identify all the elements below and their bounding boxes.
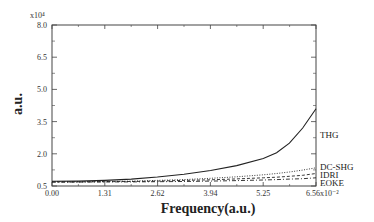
series-labels: THGDC-SHGIDRIEOKE (320, 130, 354, 188)
series-label-thg: THG (320, 130, 339, 140)
x-axis-title: Frequency(a.u.) (161, 201, 256, 217)
y-axis-ticks: 0.52.03.55.06.58.0 (37, 21, 316, 191)
y-tick-label: 8.0 (37, 21, 47, 30)
y-tick-label: 5.0 (37, 85, 47, 94)
chart-canvas: 0.001.312.623.945.256.56x10⁻² 0.52.03.55… (0, 0, 374, 222)
series-line-thg (52, 109, 316, 182)
y-tick-label: 2.0 (37, 150, 47, 159)
x-tick-label: 3.94 (203, 189, 217, 198)
x-tick-label: 0.00 (45, 189, 59, 198)
series-label-eoke: EOKE (320, 178, 344, 188)
series-lines (52, 109, 316, 182)
y-tick-label: 3.5 (37, 118, 47, 127)
x-tick-label: 1.31 (98, 189, 112, 198)
x-tick-label: 6.56x10⁻² (306, 189, 339, 198)
plot-frame (52, 25, 316, 186)
y-exponent-label: x10⁴ (30, 11, 45, 20)
y-tick-label: 0.5 (37, 182, 47, 191)
y-tick-label: 6.5 (37, 53, 47, 62)
x-tick-label: 5.25 (256, 189, 270, 198)
x-tick-label: 2.62 (151, 189, 165, 198)
x-axis-ticks: 0.001.312.623.945.256.56x10⁻² (45, 25, 339, 198)
y-axis-title: a.u. (10, 93, 25, 115)
